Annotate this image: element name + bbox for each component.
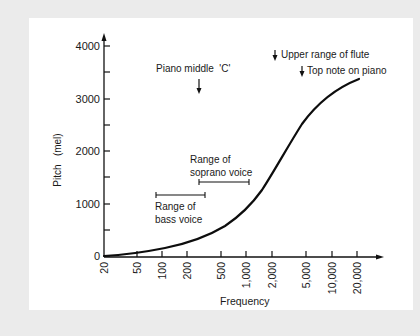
piano-middle-c-label: Piano middle 'C' <box>156 63 231 74</box>
annotation-bass-range: Range of bass voice <box>155 192 205 225</box>
x-axis-arrow-icon <box>376 255 384 260</box>
down-arrow-icon <box>197 88 202 94</box>
pitch-frequency-chart: 0 1000 2000 3000 4000 Pitch (mel) 20 50 … <box>0 0 420 336</box>
upper-flute-label: Upper range of flute <box>281 49 370 60</box>
down-arrow-icon <box>300 71 305 77</box>
x-tick-20: 20 <box>98 262 110 274</box>
y-tick-1000: 1000 <box>76 198 100 210</box>
annotation-upper-flute: Upper range of flute <box>273 49 370 61</box>
y-axis: 0 1000 2000 3000 4000 Pitch (mel) <box>52 33 110 262</box>
soprano-label-line1: Range of <box>190 154 231 165</box>
y-axis-label: Pitch (mel) <box>52 133 63 186</box>
x-tick-500: 500 <box>215 262 227 280</box>
y-tick-3000: 3000 <box>76 93 100 105</box>
y-tick-0: 0 <box>94 250 100 262</box>
down-arrow-icon <box>273 55 278 61</box>
y-tick-4000: 4000 <box>76 40 100 52</box>
x-tick-10000: 10,000 <box>326 262 338 294</box>
y-axis-arrow-icon <box>102 33 107 41</box>
x-tick-1000: 1,000 <box>240 262 252 288</box>
x-tick-5000: 5,000 <box>300 262 312 288</box>
x-tick-50: 50 <box>131 262 143 274</box>
x-axis-label: Frequency <box>220 295 270 307</box>
x-axis: 20 50 100 200 500 1,000 2,000 5,000 10,0… <box>98 251 384 307</box>
x-tick-20000: 20,000 <box>351 262 363 294</box>
x-tick-2000: 2,000 <box>266 262 278 288</box>
soprano-label-line2: soprano voice <box>190 167 253 178</box>
bass-label-line2: bass voice <box>155 214 203 225</box>
annotation-piano-middle-c: Piano middle 'C' <box>156 63 231 94</box>
x-tick-200: 200 <box>181 262 193 280</box>
x-tick-100: 100 <box>156 262 168 280</box>
top-piano-label: Top note on piano <box>307 65 387 76</box>
annotation-soprano-range: Range of soprano voice <box>190 154 253 185</box>
annotation-top-piano: Top note on piano <box>300 65 387 77</box>
y-tick-2000: 2000 <box>76 145 100 157</box>
bass-label-line1: Range of <box>155 201 196 212</box>
